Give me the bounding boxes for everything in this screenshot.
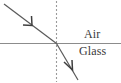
refraction-diagram: Air Glass [0,0,121,83]
refracted-ray-arrowhead [64,60,73,70]
label-air: Air [84,28,100,40]
incident-ray [4,4,57,44]
label-glass: Glass [79,45,106,57]
refracted-ray [57,44,79,81]
refraction-svg-canvas [0,0,121,83]
